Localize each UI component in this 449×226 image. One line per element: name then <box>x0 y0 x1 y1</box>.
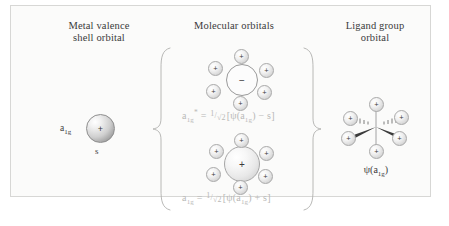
bonding-ligand-sphere-lower-right: + <box>258 169 273 184</box>
metal-orbital-name-label: s <box>95 146 99 156</box>
bonding-ligand-sign-lower-left: + <box>207 168 220 181</box>
lgo-ligand-sphere-upper-left: + <box>343 111 358 126</box>
bonding-eq-rhs-tail: ) + s] <box>248 192 270 203</box>
antibonding-ligand-sphere-lower-left: + <box>206 84 221 99</box>
antibonding-ligand-sphere-upper-left: + <box>208 61 223 76</box>
antibonding-core-sign: − <box>227 65 257 95</box>
antibonding-ligand-sign-upper-left: + <box>209 62 222 75</box>
lgo-ligand-sign-bottom: + <box>370 145 383 158</box>
bonding-ligand-sphere-top: + <box>234 133 249 148</box>
bonding-ligand-sphere-lower-left: + <box>206 167 221 182</box>
column-title-molecular-line1: Molecular orbitals <box>161 20 307 32</box>
column-title-metal-line1: Metal valence <box>43 20 155 32</box>
lgo-label-psi: ψ(a <box>364 164 378 175</box>
bonding-ligand-sign-upper-right: + <box>260 147 273 160</box>
antibonding-eq-fraction: 1/√2 <box>210 111 225 120</box>
diagram-frame: Metal valence shell orbital Molecular or… <box>10 5 431 197</box>
antibonding-core-orbital: − <box>226 64 258 96</box>
bonding-ligand-sign-lower-right: + <box>259 170 272 183</box>
right-curly-brace <box>302 46 324 212</box>
bonding-core-orbital: + <box>224 146 260 182</box>
antibonding-eq-rhs: [ψ(a <box>227 110 245 121</box>
antibonding-eq-lhs-sup: * <box>194 108 198 117</box>
bonding-mo-equation: a1g = 1/√2[ψ(a1g) + s] <box>182 192 271 206</box>
column-title-ligand-line2: orbital <box>315 32 435 44</box>
left-brace-icon <box>150 46 172 212</box>
metal-orbital-symmetry-label: a1g <box>60 123 71 136</box>
antibonding-ligand-sign-upper-right: + <box>260 64 273 77</box>
lgo-ligand-sign-upper-right: + <box>395 111 408 124</box>
antibonding-ligand-sign-lower-left: + <box>207 85 220 98</box>
antibonding-mo-equation: a1g* = 1/√2[ψ(a1g) − s] <box>182 108 275 124</box>
bonding-eq-numerator: 1 <box>206 191 210 200</box>
ligand-group-orbital-cluster: + + + + + + <box>335 94 417 162</box>
column-title-ligand-group-orbital: Ligand group orbital <box>315 20 435 44</box>
column-title-ligand-line1: Ligand group <box>315 20 435 32</box>
lgo-label-subscript: 1g <box>378 170 385 178</box>
ligand-group-orbital-label: ψ(a1g) <box>335 164 417 178</box>
bonding-eq-denominator: √2 <box>213 195 222 204</box>
antibonding-ligand-sphere-upper-right: + <box>259 63 274 78</box>
bonding-eq-equals: = <box>197 192 203 203</box>
lgo-ligand-sphere-bottom: + <box>369 144 384 159</box>
metal-orbital-sign: + <box>87 115 114 142</box>
antibonding-eq-denominator: √2 <box>217 113 226 122</box>
column-title-molecular-orbitals: Molecular orbitals <box>161 20 307 32</box>
bonding-eq-fraction: 1/√2 <box>206 193 221 202</box>
bonding-ligand-sign-upper-left: + <box>210 145 223 158</box>
bond-wedge-lower-left <box>355 127 376 138</box>
lgo-ligand-sphere-top: + <box>369 97 384 112</box>
lgo-ligand-sign-upper-left: + <box>344 112 357 125</box>
lgo-ligand-sign-top: + <box>370 98 383 111</box>
antibonding-eq-lhs-sub: 1g <box>187 116 194 124</box>
bonding-eq-lhs-sub: 1g <box>187 198 194 206</box>
metal-symmetry-subscript: 1g <box>64 128 71 136</box>
antibonding-ligand-sign-lower-right: + <box>258 86 271 99</box>
bonding-ligand-sign-top: + <box>235 134 248 147</box>
column-title-metal-line2: shell orbital <box>43 32 155 44</box>
bonding-core-sign: + <box>225 147 259 181</box>
column-title-metal-valence-shell-orbital: Metal valence shell orbital <box>43 20 155 44</box>
antibonding-eq-equals: = <box>201 110 207 121</box>
antibonding-ligand-sphere-lower-right: + <box>257 85 272 100</box>
lgo-ligand-sphere-upper-right: + <box>394 110 409 125</box>
molecular-orbital-diagram: Metal valence shell orbital Molecular or… <box>0 0 449 226</box>
bonding-mo-cluster: + + + + + + + <box>193 133 289 195</box>
antibonding-ligand-sphere-top: + <box>234 49 249 64</box>
lgo-ligand-sphere-lower-right: + <box>392 131 407 146</box>
right-brace-icon <box>302 46 324 212</box>
lgo-label-close: ) <box>385 164 388 175</box>
left-curly-brace <box>150 46 172 212</box>
lgo-ligand-sign-lower-right: + <box>393 132 406 145</box>
lgo-ligand-sign-lower-left: + <box>342 132 355 145</box>
antibonding-mo-cluster: − + + + + + + <box>193 49 289 111</box>
lgo-ligand-sphere-lower-left: + <box>341 131 356 146</box>
antibonding-eq-rhs-tail: ) − s] <box>252 110 274 121</box>
bonding-eq-rhs: [ψ(a <box>223 192 241 203</box>
antibonding-ligand-sign-top: + <box>235 50 248 63</box>
metal-s-orbital-sphere: + <box>86 114 115 143</box>
bonding-ligand-sphere-upper-left: + <box>209 144 224 159</box>
bonding-ligand-sphere-upper-right: + <box>259 146 274 161</box>
antibonding-eq-numerator: 1 <box>210 109 214 118</box>
